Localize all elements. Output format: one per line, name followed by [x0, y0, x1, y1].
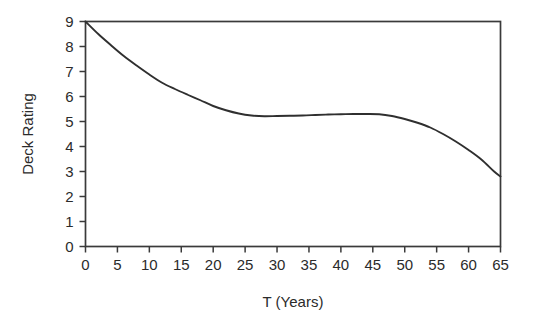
x-tick-label: 60 [460, 256, 477, 273]
y-tick-label: 7 [65, 63, 73, 80]
x-tick-label: 40 [333, 256, 350, 273]
y-tick-label: 6 [65, 88, 73, 105]
x-tick-label: 25 [237, 256, 254, 273]
plot-frame-rect [86, 22, 501, 247]
y-axis-tick-labels: 0123456789 [65, 13, 73, 255]
x-tick-label: 30 [269, 256, 286, 273]
x-tick-label: 45 [364, 256, 381, 273]
x-tick-label: 15 [173, 256, 190, 273]
y-tick-label: 1 [65, 213, 73, 230]
chart-figure: 05101520253035404550556065 0123456789 T … [0, 0, 538, 329]
x-tick-label: 35 [301, 256, 318, 273]
y-tick-label: 5 [65, 113, 73, 130]
x-tick-label: 20 [205, 256, 222, 273]
x-tick-label: 5 [113, 256, 121, 273]
y-tick-label: 0 [65, 238, 73, 255]
x-tick-label: 0 [81, 256, 89, 273]
y-axis-ticks [80, 22, 86, 247]
y-tick-label: 8 [65, 38, 73, 55]
x-tick-label: 50 [396, 256, 413, 273]
y-tick-label: 4 [65, 138, 73, 155]
y-tick-label: 3 [65, 163, 73, 180]
x-tick-label: 65 [492, 256, 509, 273]
y-tick-label: 9 [65, 13, 73, 30]
x-axis-ticks [86, 247, 501, 253]
line-chart: 05101520253035404550556065 0123456789 T … [0, 0, 538, 329]
y-axis-title: Deck Rating [19, 93, 36, 175]
plot-frame [86, 22, 501, 247]
x-axis-title: T (Years) [263, 293, 324, 310]
x-tick-label: 55 [428, 256, 445, 273]
x-tick-label: 10 [141, 256, 158, 273]
y-tick-label: 2 [65, 188, 73, 205]
x-axis-tick-labels: 05101520253035404550556065 [81, 256, 509, 273]
deck-rating-curve [86, 22, 501, 177]
